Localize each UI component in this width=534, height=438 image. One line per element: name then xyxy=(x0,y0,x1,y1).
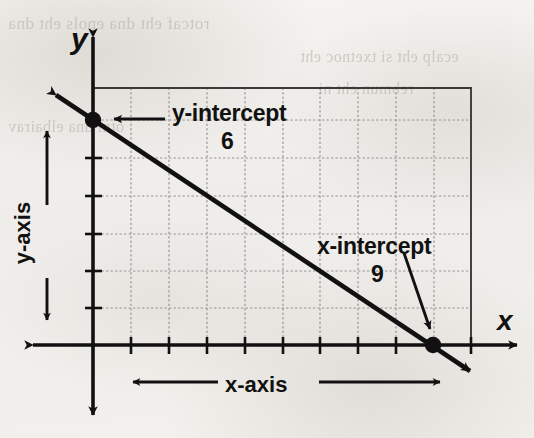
x-intercept-value: 9 xyxy=(371,261,384,288)
y-axis-annotation-label: y-axis xyxy=(10,202,36,264)
x-axis-name-label: x xyxy=(497,305,513,337)
y-axis-name-label: y xyxy=(71,22,88,56)
x-intercept-point xyxy=(425,337,441,353)
x-intercept-leader-arrow xyxy=(404,253,430,329)
x-axis-annotation-label: x-axis xyxy=(225,372,287,398)
y-intercept-value: 6 xyxy=(221,128,234,155)
y-intercept-point xyxy=(85,112,101,128)
y-intercept-label: y-intercept xyxy=(172,100,286,127)
x-intercept-label: x-intercept xyxy=(317,233,431,260)
